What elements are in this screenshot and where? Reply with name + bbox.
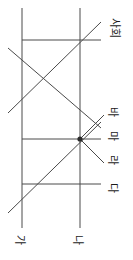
label-sahoe: 사회 bbox=[108, 18, 120, 38]
label-na: 나 bbox=[71, 235, 83, 245]
horizontal-lines-group bbox=[22, 40, 101, 184]
diagonal-node-ra bbox=[80, 139, 104, 163]
label-ga: 가 bbox=[13, 235, 25, 245]
label-ba: 바 bbox=[106, 107, 118, 117]
label-ma: 마 bbox=[106, 131, 118, 141]
node-junction-ma bbox=[77, 136, 82, 141]
label-da: 다 bbox=[106, 183, 118, 193]
label-ra: 라 bbox=[106, 155, 118, 165]
vertical-lines-group bbox=[22, 8, 80, 228]
figure-canvas: 사회 바 마 라 다 가 나 bbox=[0, 0, 133, 260]
